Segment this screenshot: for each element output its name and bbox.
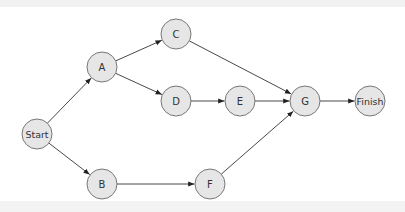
node-c: C [161,19,191,49]
node-label: G [301,96,309,107]
node-f: F [195,169,225,199]
node-label: F [207,179,213,190]
node-label: Start [25,129,48,140]
edge-A-to-D [116,73,162,94]
edge-start-to-B [49,143,90,174]
node-b: B [87,169,117,199]
node-label: B [99,179,106,190]
node-e: E [225,86,255,116]
node-label: D [172,96,180,107]
node-start: Start [22,119,52,149]
node-d: D [161,86,191,116]
edge-A-to-C [116,40,162,61]
node-label: E [237,96,243,107]
node-label: C [173,29,180,40]
node-label: Finish [356,96,383,107]
edge-F-to-G [221,111,293,174]
network-diagram: StartACDEGFinishBF [0,0,405,212]
edge-start-to-A [47,78,91,123]
nodes-layer: StartACDEGFinishBF [22,19,385,199]
node-finish: Finish [355,86,385,116]
node-g: G [290,86,320,116]
node-label: A [99,62,106,73]
node-a: A [87,52,117,82]
